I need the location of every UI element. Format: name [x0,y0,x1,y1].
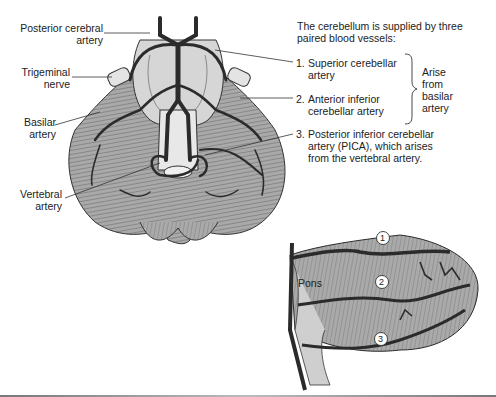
label-line: Basilar [8,116,56,128]
vessel-line: cerebellar artery [296,105,384,117]
note-line: from [422,78,453,90]
marker-2-label: 2 [379,276,384,288]
vessel-line: Superior cerebellar [308,57,397,69]
note-line: artery [422,102,453,114]
vessel-line: artery (PICA), which arises [296,140,434,152]
label-pons: Pons [298,277,322,289]
label-trigeminal-nerve: Trigeminal nerve [8,66,70,90]
intro-line: The cerebellum is supplied by three [297,20,496,32]
label-line: Vertebral [8,188,62,200]
label-posterior-cerebral-artery: Posterior cerebral artery [8,22,103,46]
brace-note: Arise from basilar artery [422,66,453,114]
marker-3-label: 3 [378,333,383,345]
vessel-number: 2. [296,93,308,105]
brace [405,54,417,124]
marker-1-label: 1 [380,232,385,244]
vessel-line: Posterior inferior cerebellar [308,128,434,140]
vessel-item-3: 3.Posterior inferior cerebellar artery (… [296,128,434,164]
vessel-line: Anterior inferior [308,93,380,105]
note-line: Arise [422,66,453,78]
intro-text: The cerebellum is supplied by three pair… [297,20,496,44]
vessel-number: 3. [296,128,308,140]
label-line: Posterior cerebral [8,22,103,34]
label-line: nerve [8,78,70,90]
label-line: Trigeminal [8,66,70,78]
vessel-item-1: 1.Superior cerebellar artery [296,57,397,81]
label-line: artery [8,34,103,46]
intro-line: paired blood vessels: [297,32,496,44]
note-line: basilar [422,90,453,102]
label-line: artery [8,128,56,140]
vessel-line: from the vertebral artery. [296,152,434,164]
cerebellum-ventral-illustration [0,0,496,397]
vessel-number: 1. [296,57,308,69]
label-line: artery [8,200,62,212]
lateral-view [290,232,478,391]
label-vertebral-artery: Vertebral artery [8,188,62,212]
vessel-line: artery [296,69,397,81]
vessel-item-2: 2.Anterior inferior cerebellar artery [296,93,384,117]
label-basilar-artery: Basilar artery [8,116,56,140]
